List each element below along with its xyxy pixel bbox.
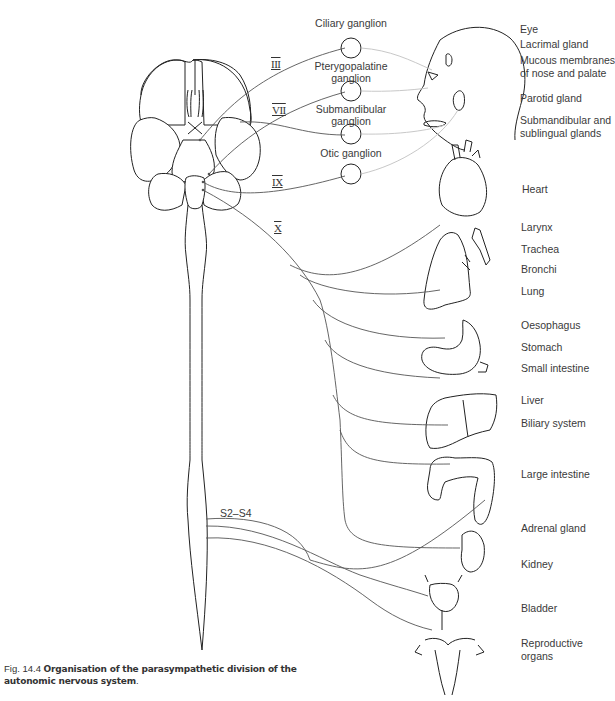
ganglion-label-submandibular: Submandibular ganglion — [311, 103, 391, 127]
brain-illustration — [131, 60, 261, 211]
kidney-illustration — [461, 531, 484, 572]
target-label-parotid-gland: Parotid gland — [520, 92, 582, 105]
bladder-illustration — [425, 575, 462, 630]
spinal-cord-illustration — [185, 205, 207, 650]
figure-title-line2: autonomic nervous system — [4, 676, 136, 686]
cranial-nerve-VII-label: VII — [272, 104, 286, 116]
ganglion-label-ciliary: Ciliary ganglion — [311, 17, 391, 30]
target-label-adrenal-gland: Adrenal gland — [521, 522, 586, 535]
figure-title-line1: Organisation of the parasympathetic divi… — [44, 664, 297, 674]
cranial-nerve-III-label: III — [271, 58, 281, 70]
cranial-nerve-X-label: X — [274, 222, 281, 234]
target-label-reproductive-organs: Reproductive organs — [521, 637, 583, 663]
large-intestine-illustration — [427, 457, 494, 524]
target-label-eye: Eye — [520, 23, 538, 36]
reproductive-illustration — [415, 638, 484, 695]
target-label-submandibular-sublingual: Submandibular and sublingual glands — [520, 114, 611, 140]
target-label-bladder: Bladder — [521, 602, 557, 615]
ganglion-label-otic: Otic ganglion — [311, 147, 391, 160]
stomach-illustration — [422, 320, 488, 374]
target-label-trachea: Trachea — [521, 243, 559, 256]
liver-illustration — [426, 394, 497, 449]
head-illustration — [417, 27, 524, 150]
target-label-kidney: Kidney — [521, 558, 553, 571]
target-label-larynx: Larynx — [521, 221, 553, 234]
lung-illustration — [424, 228, 490, 309]
target-label-lung: Lung — [521, 285, 544, 298]
cranial-nerve-IX-label: IX — [272, 176, 283, 188]
target-label-large-intestine: Large intestine — [521, 468, 590, 481]
target-label-stomach: Stomach — [521, 341, 562, 354]
figure-caption: Fig. 14.4 Organisation of the parasympat… — [4, 663, 304, 687]
sacral-outflow-label: S2–S4 — [220, 507, 252, 520]
ganglion-label-pterygopalatine: Pterygopalatine ganglion — [311, 60, 391, 84]
target-label-lacrimal-gland: Lacrimal gland — [520, 38, 588, 51]
target-label-small-intestine: Small intestine — [521, 362, 589, 375]
target-label-liver: Liver — [521, 394, 544, 407]
figure-number: Fig. 14.4 — [4, 663, 41, 674]
target-label-bronchi: Bronchi — [521, 263, 557, 276]
target-label-biliary-system: Biliary system — [521, 417, 586, 430]
target-label-mucous-membranes: Mucous membranes of nose and palate — [520, 54, 615, 80]
heart-illustration — [439, 140, 486, 216]
target-label-oesophagus: Oesophagus — [521, 319, 581, 332]
target-label-heart: Heart — [522, 183, 548, 196]
